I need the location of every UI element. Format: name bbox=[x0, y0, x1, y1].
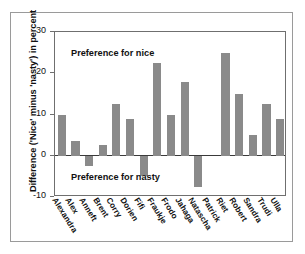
annotation-preference-nasty: Preference for nasty bbox=[71, 172, 160, 182]
annotation-preference-nice: Preference for nice bbox=[71, 48, 154, 58]
bar bbox=[167, 115, 175, 156]
y-tick-label: 20 bbox=[24, 66, 46, 76]
figure: Difference ('Nice' minus 'nasty') in per… bbox=[0, 0, 305, 254]
bar bbox=[221, 53, 229, 156]
bar bbox=[153, 63, 161, 156]
y-tick-label: 0 bbox=[24, 149, 46, 159]
bar bbox=[249, 135, 257, 156]
bar bbox=[71, 141, 79, 155]
bar bbox=[85, 156, 93, 166]
bar bbox=[276, 119, 284, 156]
bar bbox=[99, 145, 107, 155]
bar bbox=[58, 115, 66, 156]
bar bbox=[126, 119, 134, 156]
bar bbox=[181, 82, 189, 156]
x-axis-labels: AlexandraAlexAnneftBrentCorryDorienFifiF… bbox=[54, 196, 286, 252]
bar bbox=[112, 104, 120, 156]
bar bbox=[194, 156, 202, 187]
bar bbox=[235, 94, 243, 156]
y-tick-label: 10 bbox=[24, 108, 46, 118]
y-tick-label: 30 bbox=[24, 25, 46, 35]
bar bbox=[262, 104, 270, 156]
y-tick-label: -10 bbox=[24, 190, 46, 200]
plot-area: Preference for nice Preference for nasty bbox=[54, 31, 286, 196]
